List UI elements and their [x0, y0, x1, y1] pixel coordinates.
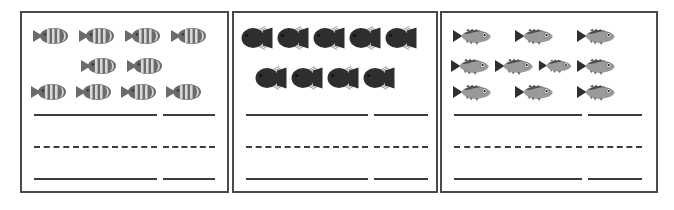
- rule-segment-short: [588, 178, 642, 180]
- answer-lines-3[interactable]: [442, 107, 656, 191]
- worksheet-panel-2: [232, 11, 438, 193]
- writing-rule-top: [442, 113, 656, 116]
- rule-segment-long: [246, 114, 368, 116]
- worksheet: [0, 0, 674, 210]
- worksheet-panel-1: [20, 11, 229, 193]
- rule-segment-long: [454, 146, 582, 148]
- striped-fish: [30, 82, 68, 102]
- gray-fish: [450, 56, 490, 76]
- rule-segment-short: [163, 178, 215, 180]
- answer-lines-2[interactable]: [234, 107, 436, 191]
- writing-rule-middle: [22, 145, 227, 148]
- writing-rule-top: [22, 113, 227, 116]
- rule-segment-short: [163, 146, 215, 148]
- gray-fish: [576, 56, 616, 76]
- worksheet-panel-3: [440, 11, 658, 193]
- writing-rule-top: [234, 113, 436, 116]
- black-fish: [384, 25, 418, 51]
- rule-segment-short: [374, 178, 428, 180]
- black-fish: [254, 65, 288, 91]
- rule-segment-long: [454, 178, 582, 180]
- answer-lines-1[interactable]: [22, 107, 227, 191]
- black-fish: [240, 25, 274, 51]
- fish-group-2: [234, 13, 436, 111]
- rule-segment-short: [588, 146, 642, 148]
- writing-rule-middle: [234, 145, 436, 148]
- gray-fish: [452, 82, 492, 102]
- gray-fish: [538, 57, 572, 74]
- rule-segment-long: [246, 146, 368, 148]
- striped-fish: [170, 26, 208, 46]
- black-fish: [276, 25, 310, 51]
- striped-fish: [80, 56, 118, 76]
- gray-fish: [576, 82, 616, 102]
- fish-row: [234, 63, 436, 93]
- black-fish: [362, 65, 396, 91]
- striped-fish: [78, 26, 116, 46]
- writing-rule-middle: [442, 145, 656, 148]
- gray-fish: [514, 26, 554, 46]
- fish-row: [442, 77, 656, 107]
- rule-segment-long: [246, 178, 368, 180]
- writing-rule-bottom: [234, 177, 436, 180]
- black-fish: [290, 65, 324, 91]
- gray-fish: [576, 26, 616, 46]
- rule-segment-short: [374, 114, 428, 116]
- rule-segment-short: [374, 146, 428, 148]
- black-fish: [326, 65, 360, 91]
- rule-segment-long: [454, 114, 582, 116]
- gray-fish: [494, 56, 534, 76]
- fish-row: [442, 21, 656, 51]
- striped-fish: [126, 56, 164, 76]
- striped-fish: [165, 82, 203, 102]
- fish-group-3: [442, 13, 656, 111]
- striped-fish: [75, 82, 113, 102]
- fish-row: [234, 23, 436, 53]
- black-fish: [348, 25, 382, 51]
- striped-fish: [120, 82, 158, 102]
- rule-segment-long: [34, 178, 157, 180]
- striped-fish: [32, 26, 70, 46]
- rule-segment-short: [163, 114, 215, 116]
- fish-group-1: [22, 13, 227, 111]
- fish-row: [22, 21, 227, 51]
- gray-fish: [514, 82, 554, 102]
- writing-rule-bottom: [442, 177, 656, 180]
- rule-segment-short: [588, 114, 642, 116]
- fish-row: [22, 77, 227, 107]
- striped-fish: [124, 26, 162, 46]
- rule-segment-long: [34, 114, 157, 116]
- writing-rule-bottom: [22, 177, 227, 180]
- rule-segment-long: [34, 146, 157, 148]
- gray-fish: [452, 26, 492, 46]
- black-fish: [312, 25, 346, 51]
